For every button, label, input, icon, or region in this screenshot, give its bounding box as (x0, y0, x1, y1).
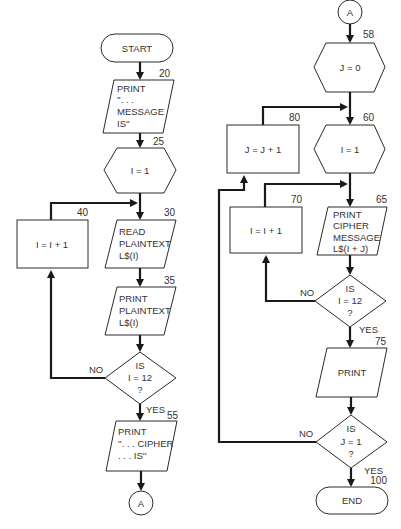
step-line: PRINT (117, 83, 146, 94)
decision-line: ? (348, 448, 353, 459)
step-label: PRINT (338, 367, 367, 378)
arrow-80-to-60-loop (263, 107, 346, 125)
start-label: START (122, 43, 152, 54)
step-number: 65 (376, 194, 388, 205)
no-branch-label: NO (299, 428, 313, 439)
step-number: 75 (375, 336, 387, 347)
decision-line: IS (346, 283, 355, 294)
step-number: 80 (289, 112, 301, 123)
arrow-70-to-65-loop (265, 184, 346, 207)
arrow-40-to-30-loop (51, 203, 136, 220)
step-line: L$(I) (119, 250, 139, 261)
decision-line: ? (137, 384, 142, 395)
connector-label: A (138, 498, 145, 509)
step-label: J = 0 (340, 62, 361, 73)
step-label: I = I + 1 (36, 239, 68, 250)
step-number: 70 (291, 194, 303, 205)
step-line: MESSAGE (117, 106, 164, 117)
step-line: READ (119, 226, 146, 237)
no-branch-label: NO (89, 364, 103, 375)
decision-j-equals-1: IS J = 1 ? NO YES (299, 415, 387, 476)
step-number: 25 (153, 136, 165, 147)
connector-a-out: A (129, 491, 153, 515)
step-line: PLAINTEXT (119, 238, 171, 249)
step-75-print: 75 PRINT (316, 336, 387, 397)
step-40-increment-i: 40 I = I + 1 (17, 207, 88, 268)
step-line: PRINT (333, 209, 362, 220)
step-line: ''. . . CIPHER (118, 438, 173, 449)
step-label: J = J + 1 (245, 144, 281, 155)
decision-line: I = 12 (128, 372, 152, 383)
step-55-print-cipher-is: 55 PRINT ''. . . CIPHER . . . IS'' (106, 410, 178, 471)
no-branch-label: NO (300, 287, 314, 298)
step-line: PRINT (119, 293, 148, 304)
step-line: ''. . . (117, 94, 134, 105)
connector-label: A (347, 7, 354, 18)
step-70-increment-i: 70 I = I + 1 (230, 194, 302, 253)
decision-line: ? (347, 307, 352, 318)
decision-i-equals-12-right: IS I = 12 ? NO YES (300, 275, 386, 335)
step-number: 100 (370, 475, 387, 486)
decision-line: J = 1 (341, 436, 362, 447)
step-line: L$(I) (119, 317, 139, 328)
yes-branch-label: YES (146, 404, 165, 415)
step-line: IS'' (117, 118, 130, 129)
step-label: I = I + 1 (250, 225, 282, 236)
step-20-print-message: 20 PRINT ''. . . MESSAGE IS'' (103, 68, 174, 133)
arrow-no-to-40 (51, 272, 105, 378)
step-label: I = 1 (341, 144, 360, 155)
step-line: PLAINTEXT (119, 305, 171, 316)
step-line: CIPHER (333, 220, 369, 231)
step-number: 35 (164, 275, 176, 286)
step-number: 58 (363, 29, 375, 40)
step-label: I = 1 (131, 165, 150, 176)
decision-i-equals-12-left: IS I = 12 ? NO YES (89, 352, 176, 415)
start-terminal: START (101, 34, 173, 62)
step-number: 60 (363, 112, 375, 123)
decision-line: IS (136, 360, 145, 371)
step-line: MESSAGE (333, 232, 380, 243)
step-number: 55 (167, 410, 179, 421)
end-label: END (342, 495, 362, 506)
step-line: PRINT (118, 426, 147, 437)
flowchart-canvas: START 20 PRINT ''. . . MESSAGE IS'' 25 I… (0, 0, 401, 529)
connector-a-in: A (338, 0, 362, 24)
step-line: L$(I + J) (333, 243, 368, 254)
step-number: 30 (164, 207, 176, 218)
step-65-print-cipher-message: 65 PRINT CIPHER MESSAGE L$(I + J) (317, 194, 387, 255)
step-number: 20 (159, 68, 171, 79)
decision-line: I = 12 (338, 295, 362, 306)
decision-line: IS (347, 423, 356, 434)
yes-branch-label: YES (359, 324, 378, 335)
step-number: 40 (77, 207, 89, 218)
step-line: . . . IS'' (118, 450, 147, 461)
